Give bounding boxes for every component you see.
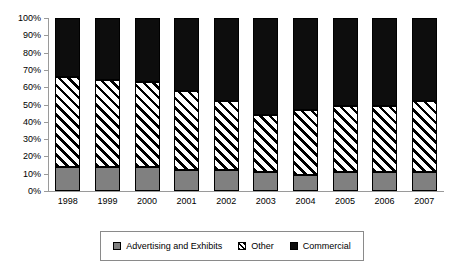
bar-segment-commercial[interactable] [412,18,437,101]
legend-item-label: Other [251,242,274,251]
bar-group[interactable] [214,18,239,191]
bar-segment-advertising[interactable] [293,175,318,191]
bar-segment-advertising[interactable] [372,172,397,191]
y-axis-label: 40% [23,117,41,126]
x-axis-label: 2000 [137,197,157,206]
y-axis-label: 100% [18,14,41,23]
bar-segment-advertising[interactable] [253,172,278,191]
bar-segment-commercial[interactable] [372,18,397,106]
bar-group[interactable] [412,18,437,191]
bar-group[interactable] [95,18,120,191]
bar-segment-other[interactable] [95,80,120,167]
bar-group[interactable] [55,18,80,191]
bar-group[interactable] [333,18,358,191]
y-axis-label: 10% [23,169,41,178]
bar-segment-other[interactable] [412,101,437,172]
bar-segment-advertising[interactable] [95,167,120,191]
x-axis-label: 2005 [335,197,355,206]
bar-segment-commercial[interactable] [293,18,318,110]
y-axis-tick-mark [44,191,48,192]
legend-swatch-commercial [290,242,298,250]
bar-segment-other[interactable] [55,77,80,167]
x-axis-label: 2001 [177,197,197,206]
bar-segment-other[interactable] [293,110,318,175]
bar-segment-commercial[interactable] [95,18,120,80]
bar-segment-commercial[interactable] [135,18,160,82]
x-axis-label: 1998 [58,197,78,206]
bar-segment-other[interactable] [174,91,199,171]
bar-group[interactable] [372,18,397,191]
bar-segment-commercial[interactable] [174,18,199,91]
bar-segment-advertising[interactable] [135,167,160,191]
y-axis-label: 60% [23,83,41,92]
bar-segment-other[interactable] [253,115,278,172]
chart-legend: Advertising and ExhibitsOtherCommercial [100,231,364,261]
legend-swatch-other [238,242,246,250]
y-axis-label: 20% [23,152,41,161]
bar-group[interactable] [293,18,318,191]
x-axis-label: 2004 [295,197,315,206]
y-axis-label: 70% [23,65,41,74]
legend-item[interactable]: Commercial [290,242,351,251]
legend-item[interactable]: Other [238,242,274,251]
legend-item-label: Advertising and Exhibits [126,242,222,251]
bar-segment-advertising[interactable] [55,167,80,191]
bar-segment-advertising[interactable] [333,172,358,191]
bar-group[interactable] [135,18,160,191]
plot-area: 0%10%20%30%40%50%60%70%80%90%100% 199819… [48,18,444,191]
bar-group[interactable] [253,18,278,191]
bar-segment-advertising[interactable] [174,170,199,191]
bar-segment-other[interactable] [372,106,397,172]
x-axis-label: 1999 [97,197,117,206]
x-axis-line [48,191,444,192]
bars-layer [48,18,444,191]
x-axis-label: 2006 [375,197,395,206]
x-axis-label: 2003 [256,197,276,206]
stacked-bar-chart: 0%10%20%30%40%50%60%70%80%90%100% 199819… [0,0,457,274]
legend-item[interactable]: Advertising and Exhibits [113,242,222,251]
bar-segment-commercial[interactable] [214,18,239,101]
bar-segment-commercial[interactable] [253,18,278,115]
bar-segment-commercial[interactable] [333,18,358,106]
legend-swatch-advertising [113,242,121,250]
bar-segment-advertising[interactable] [214,170,239,191]
bar-segment-other[interactable] [214,101,239,170]
bar-segment-other[interactable] [333,106,358,172]
bar-segment-other[interactable] [135,82,160,167]
bar-segment-advertising[interactable] [412,172,437,191]
x-axis-label: 2002 [216,197,236,206]
legend-item-label: Commercial [303,242,351,251]
x-axis-label: 2007 [414,197,434,206]
y-axis-label: 30% [23,135,41,144]
bar-group[interactable] [174,18,199,191]
bar-segment-commercial[interactable] [55,18,80,77]
y-axis-label: 50% [23,100,41,109]
y-axis-label: 80% [23,48,41,57]
y-axis-label: 90% [23,31,41,40]
y-axis-label: 0% [28,187,41,196]
